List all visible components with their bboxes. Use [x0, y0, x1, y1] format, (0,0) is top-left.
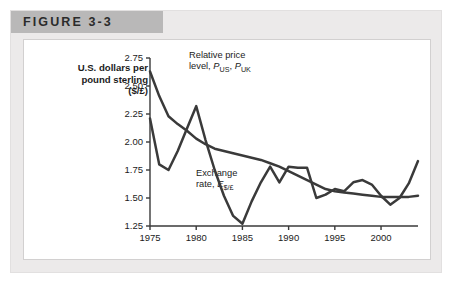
y-tick-label: 1.75	[125, 164, 144, 175]
series-line-relative-price	[150, 71, 418, 196]
x-tick-label: 2000	[370, 232, 391, 243]
series-line-exchange-rate	[150, 106, 418, 224]
chart-card: U.S. dollars per pound sterling ($/£) Re…	[23, 39, 431, 260]
chart-plot: 1.251.501.752.002.252.502.75197519801985…	[24, 40, 430, 259]
y-tick-label: 2.25	[125, 108, 144, 119]
x-tick-label: 1995	[324, 232, 345, 243]
x-tick-label: 1990	[278, 232, 299, 243]
figure-label: FIGURE 3-3	[23, 15, 113, 29]
y-tick-label: 2.00	[125, 136, 144, 147]
y-tick-label: 1.25	[125, 220, 144, 231]
y-tick-label: 2.50	[125, 80, 144, 91]
x-tick-label: 1980	[186, 232, 207, 243]
x-tick-label: 1985	[232, 232, 253, 243]
figure-title-band: FIGURE 3-3	[11, 11, 163, 33]
y-tick-label: 1.50	[125, 192, 144, 203]
figure-panel: FIGURE 3-3 U.S. dollars per pound sterli…	[11, 11, 441, 272]
y-tick-label: 2.75	[125, 52, 144, 63]
x-tick-label: 1975	[139, 232, 160, 243]
